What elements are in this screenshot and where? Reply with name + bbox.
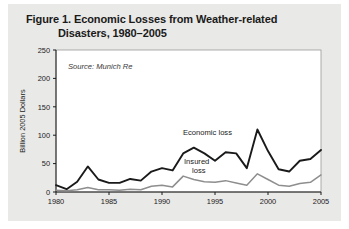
y-tick-label-200: 200 — [38, 74, 50, 83]
y-tick-label-250: 250 — [38, 46, 50, 55]
x-tick-label-2005: 2005 — [313, 197, 329, 206]
y-axis: 050100150200250 Billion 2005 Dollars — [18, 46, 56, 197]
y-tick-label-100: 100 — [38, 131, 50, 140]
x-tick-label-1995: 1995 — [207, 197, 223, 206]
chart-plot-area: 050100150200250 Billion 2005 Dollars 198… — [8, 4, 341, 221]
series-label-economic-loss: Economic loss — [183, 128, 232, 137]
x-axis: 198019851990199520002005 — [48, 192, 329, 206]
economic-losses-line-chart: 050100150200250 Billion 2005 Dollars 198… — [8, 4, 341, 221]
y-axis-tick-labels: 050100150200250 — [38, 46, 50, 197]
x-tick-label-1985: 1985 — [101, 197, 117, 206]
y-tick-label-0: 0 — [46, 188, 50, 197]
figure-card: Figure 1. Economic Losses from Weather-r… — [8, 4, 341, 221]
y-tick-label-150: 150 — [38, 103, 50, 112]
y-tick-label-50: 50 — [42, 159, 50, 168]
x-tick-label-1980: 1980 — [48, 197, 64, 206]
y-axis-title: Billion 2005 Dollars — [18, 89, 27, 153]
series-label-insured-loss-line2: loss — [192, 166, 206, 175]
x-tick-label-2000: 2000 — [260, 197, 276, 206]
x-axis-tick-labels: 198019851990199520002005 — [48, 197, 329, 206]
series-label-insured-loss-line1: Insured — [184, 157, 209, 166]
x-tick-label-1990: 1990 — [154, 197, 170, 206]
source-note: Source: Munich Re — [68, 62, 133, 71]
